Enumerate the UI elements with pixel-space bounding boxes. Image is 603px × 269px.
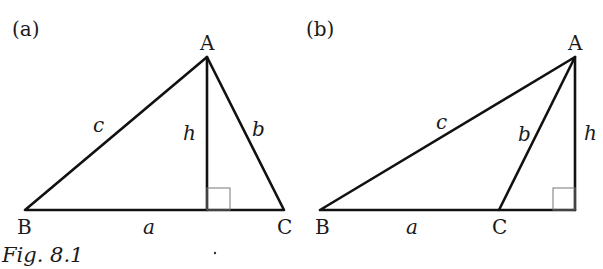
right-angle-marker-a [207,188,230,210]
side-b-a: a [406,215,418,239]
side-b-h: h [584,121,597,145]
triangle-a [25,57,284,210]
side-a-c: c [93,113,104,137]
triangle-b [320,57,575,210]
side-b-b: b [518,122,531,146]
side-a-h: h [183,121,196,145]
side-b-c: c [436,110,447,134]
vertex-a-C: C [277,215,292,239]
vertex-a-B: B [17,215,32,239]
panel-a-label: (a) [12,17,40,41]
side-a-a: a [143,215,155,239]
vertex-b-C: C [492,215,507,239]
panel-a: (a) A B C c h b a [12,17,292,239]
stray-dot [214,252,216,254]
panel-b: (b) A B C c b h a [306,17,597,239]
figure-caption: Fig. 8.1 [1,243,83,267]
vertex-a-A: A [199,31,215,55]
figure-canvas: (a) A B C c h b a (b) A B C c b h a Fig.… [0,0,603,269]
right-angle-marker-b [553,188,575,210]
side-a-b: b [252,117,265,141]
vertex-b-B: B [315,215,330,239]
vertex-b-A: A [567,31,583,55]
panel-b-label: (b) [306,17,334,41]
